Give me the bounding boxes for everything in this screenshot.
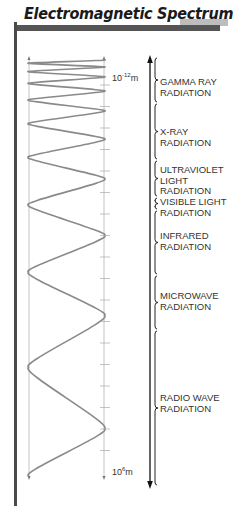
band-label-gamma: GAMMA RAYRADIATION — [160, 77, 217, 98]
band-label-xray: X-RAYRADIATION — [160, 127, 211, 148]
band-label-infrared: INFRAREDRADIATION — [160, 231, 211, 252]
band-label-uv: ULTRAVIOLETLIGHTRADIATION — [160, 165, 224, 197]
wave-curve — [28, 60, 105, 476]
brace-microwave — [155, 276, 158, 329]
brace-xray — [155, 104, 158, 159]
brace-infrared — [155, 211, 158, 274]
band-braces — [155, 58, 158, 485]
band-label-visible: VISIBLE LIGHTRADIATION — [160, 197, 227, 218]
band-label-microwave: MICROWAVERADIATION — [160, 291, 219, 312]
scale-top-label: 10-12m — [112, 72, 138, 83]
brace-visible — [155, 198, 158, 209]
brace-uv — [155, 161, 158, 196]
brace-gamma — [155, 58, 158, 102]
scale-bottom-label: 106m — [112, 466, 133, 477]
band-label-radio: RADIO WAVERADIATION — [160, 393, 220, 414]
brace-radio — [155, 331, 158, 485]
wavelength-arrow-icon — [147, 55, 153, 489]
